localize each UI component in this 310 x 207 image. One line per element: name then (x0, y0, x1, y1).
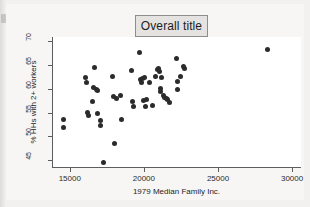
x-tick-label: 30000 (281, 174, 303, 183)
x-tick-mark (144, 168, 145, 172)
scatter-point (142, 75, 147, 80)
scatter-point (118, 93, 123, 98)
scatter-point (95, 88, 100, 93)
x-tick-label: 20000 (133, 174, 155, 183)
y-tick-mark (48, 89, 52, 90)
y-tick-mark (48, 65, 52, 66)
x-tick-mark (218, 168, 219, 172)
x-tick-mark (70, 168, 71, 172)
x-tick-label: 15000 (59, 174, 81, 183)
x-tick-label: 25000 (207, 174, 229, 183)
scatter-point (130, 99, 135, 104)
y-tick-mark (48, 160, 52, 161)
overall-title-box: Overall title (135, 15, 208, 37)
scatter-point (83, 75, 88, 80)
y-tick-mark (48, 113, 52, 114)
scatter-point (157, 69, 162, 74)
y-tick-mark (48, 136, 52, 137)
scatter-point (175, 79, 180, 84)
scatter-point (153, 74, 158, 79)
figure-card: Overall title 455055606570 1500020000250… (6, 4, 304, 200)
scatter-point (61, 125, 66, 130)
scatter-point (101, 160, 106, 165)
y-axis-label: % HHs with 2+ workers (28, 37, 40, 167)
scatter-point (86, 113, 91, 118)
page-title: Overall title (141, 19, 202, 33)
y-tick-mark (48, 41, 52, 42)
y-axis-line (52, 37, 53, 168)
scatter-point (90, 99, 95, 104)
chart-page: Overall title 455055606570 1500020000250… (0, 0, 310, 207)
scatter-point (112, 141, 117, 146)
scatter-point (98, 118, 103, 123)
x-axis-label: 1979 Median Family Inc. (52, 187, 301, 196)
x-axis-line (52, 167, 301, 168)
scatter-point (119, 117, 124, 122)
x-tick-mark (292, 168, 293, 172)
